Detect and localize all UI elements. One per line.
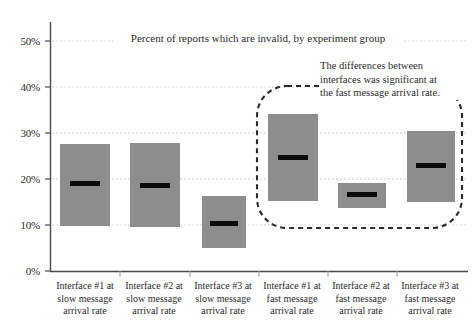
callout-line-1: The differences between — [320, 59, 472, 73]
x-tick-3-line-1: Interface #1 at — [257, 280, 327, 293]
x-tick-3-line-2: fast message — [257, 293, 327, 306]
median-3 — [278, 155, 308, 160]
x-tick-4-line-3: arrival rate — [326, 305, 396, 318]
x-tick-4-line-2: fast message — [326, 293, 396, 306]
x-tick-5-line-1: Interface #3 at — [395, 280, 465, 293]
x-tick-2-line-1: Interface #3 at — [188, 280, 258, 293]
y-tick-label-30: 30% — [8, 127, 40, 139]
x-tick-1-line-2: slow message — [119, 293, 189, 306]
y-tick-label-50: 50% — [8, 35, 40, 47]
y-tick-label-0: 0% — [8, 265, 40, 277]
x-tick-label-5: Interface #3 at fast message arrival rat… — [395, 280, 465, 318]
fast-rate-callout-text: The differences between interfaces was s… — [320, 59, 472, 100]
chart-title: Percent of reports which are invalid, by… — [113, 32, 403, 45]
x-tick-4-line-1: Interface #2 at — [326, 280, 396, 293]
x-tick-label-3: Interface #1 at fast message arrival rat… — [257, 280, 327, 318]
y-tick-label-10: 10% — [8, 219, 40, 231]
callout-line-3: the fast message arrival rate. — [320, 86, 472, 100]
y-tick-label-40: 40% — [8, 81, 40, 93]
median-4 — [347, 192, 377, 197]
x-tick-2-line-3: arrival rate — [188, 305, 258, 318]
x-tick-0-line-3: arrival rate — [50, 305, 120, 318]
y-tick-label-20: 20% — [8, 173, 40, 185]
median-0 — [70, 181, 100, 186]
x-tick-label-2: Interface #3 at slow message arrival rat… — [188, 280, 258, 318]
median-2 — [210, 221, 238, 226]
x-tick-5-line-3: arrival rate — [395, 305, 465, 318]
invalid-reports-chart: 50% 40% 30% 20% 10% 0% Percent of report… — [0, 0, 474, 334]
x-tick-1-line-1: Interface #2 at — [119, 280, 189, 293]
x-tick-label-1: Interface #2 at slow message arrival rat… — [119, 280, 189, 318]
x-tick-5-line-2: fast message — [395, 293, 465, 306]
x-tick-3-line-3: arrival rate — [257, 305, 327, 318]
x-tick-label-4: Interface #2 at fast message arrival rat… — [326, 280, 396, 318]
x-tick-2-line-2: slow message — [188, 293, 258, 306]
callout-line-2: interfaces was significant at — [320, 73, 472, 87]
x-tick-label-0: Interface #1 at slow message arrival rat… — [50, 280, 120, 318]
x-tick-0-line-2: slow message — [50, 293, 120, 306]
median-5 — [416, 163, 446, 168]
x-tick-0-line-1: Interface #1 at — [50, 280, 120, 293]
median-1 — [140, 183, 170, 188]
x-tick-1-line-3: arrival rate — [119, 305, 189, 318]
